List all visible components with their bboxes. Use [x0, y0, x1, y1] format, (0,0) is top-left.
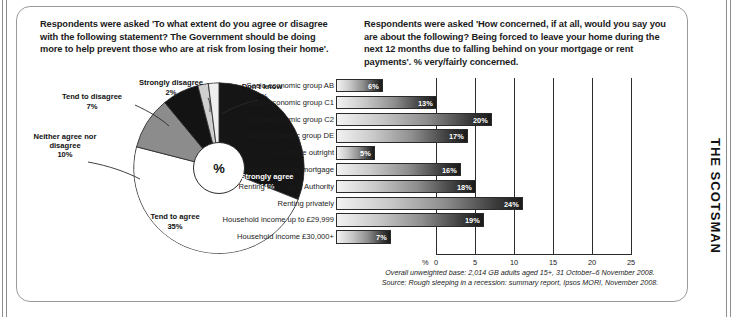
- bar-socio-c2: 20%: [336, 113, 492, 126]
- bar-socio-ab: 6%: [336, 79, 383, 92]
- bar-own-home-outright: 5%: [336, 146, 375, 159]
- gridline-15: [553, 78, 554, 254]
- left-question-heading: Respondents were asked 'To what extent d…: [40, 18, 340, 56]
- bar-category-label-socio-c2: Socio-economic group C2: [174, 115, 334, 124]
- bar-category-label-renting-privately: Renting privately: [174, 199, 334, 208]
- bar-category-label-income-30000-plus: Household income £30,000+: [174, 232, 334, 241]
- bar-category-label-renting-local-authority: Renting from Local Authority: [174, 182, 334, 191]
- xtick-5: 5: [473, 258, 477, 267]
- source-attribution-line: Source: Rough sleeping in a recession: s…: [364, 278, 676, 288]
- concern-bar-chart: 6% 13% 20% 17% 5% 16% 18% 24% 19% 7% Soc…: [336, 78, 636, 254]
- gridline-25: [631, 78, 632, 254]
- bar-socio-de: 17%: [336, 129, 468, 142]
- xtick-0: 0: [434, 258, 438, 267]
- page-edge-rule-right-outer: [730, 0, 731, 317]
- page-edge-rule-left-inner: [6, 0, 7, 317]
- pie-label-neither-agree-nor-disagree: Neither agree nor disagree 10%: [32, 132, 98, 160]
- bar-income-30000-plus: 7%: [336, 230, 391, 243]
- pie-label-tend-to-disagree: Tend to disagree 7%: [48, 92, 136, 111]
- page-edge-rule-right-inner: [726, 0, 727, 317]
- bar-renting-local-authority: 18%: [336, 180, 476, 193]
- axis-unit-label: %: [422, 258, 429, 267]
- bar-axis-line: [436, 254, 632, 255]
- source-base-line: Overall unweighted base: 2,014 GB adults…: [364, 268, 676, 278]
- right-question-heading: Respondents were asked 'How concerned, i…: [364, 18, 678, 68]
- bar-category-label-buying-on-mortgage: Buying home on mortgage: [174, 165, 334, 174]
- page-edge-rule-left-outer: [2, 0, 3, 317]
- bar-category-label-socio-ab: Socio-economic group AB: [174, 81, 334, 90]
- source-note: Overall unweighted base: 2,014 GB adults…: [364, 268, 676, 289]
- bar-income-up-to-29999: 19%: [336, 213, 484, 226]
- bar-renting-privately: 24%: [336, 197, 523, 210]
- bar-buying-on-mortgage: 16%: [336, 163, 461, 176]
- xtick-25: 25: [627, 258, 635, 267]
- xtick-10: 10: [510, 258, 518, 267]
- xtick-20: 20: [588, 258, 596, 267]
- bar-category-label-socio-c1: Socio-economic group C1: [174, 98, 334, 107]
- bar-category-label-income-up-to-29999: Household income up to £29,999: [174, 215, 334, 224]
- xtick-15: 15: [549, 258, 557, 267]
- bar-socio-c1: 13%: [336, 96, 437, 109]
- gridline-20: [592, 78, 593, 254]
- bar-series: 6% 13% 20% 17% 5% 16% 18% 24% 19% 7%: [336, 78, 532, 254]
- masthead-the-scotsman: THE SCOTSMAN: [708, 138, 723, 254]
- bar-category-label-socio-de: Socio-economic group DE: [174, 131, 334, 140]
- bar-category-label-own-home-outright: Own home outright: [174, 148, 334, 157]
